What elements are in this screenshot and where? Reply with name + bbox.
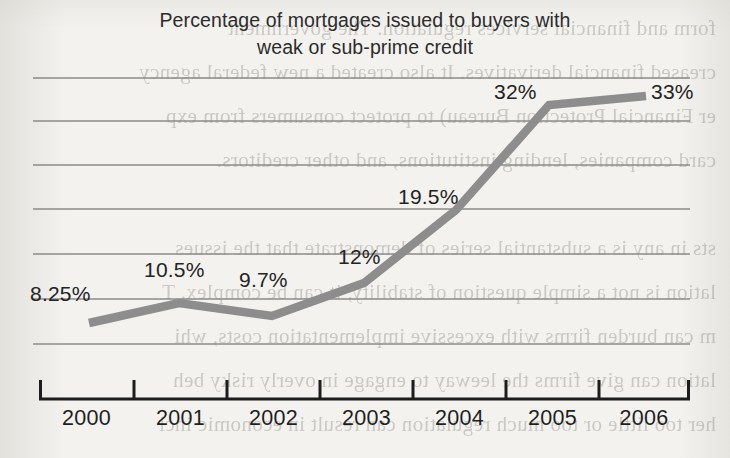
data-label-2001: 10.5% — [144, 258, 205, 282]
x-tick-label-2000: 2000 — [40, 406, 133, 431]
x-tick-label-2004: 2004 — [413, 406, 506, 431]
data-label-2000: 8.25% — [30, 282, 91, 306]
x-tick-label-2002: 2002 — [227, 406, 320, 431]
x-tick-label-2003: 2003 — [320, 406, 413, 431]
gridlines — [33, 78, 690, 344]
x-tick-label-2001: 2001 — [134, 406, 227, 431]
data-label-2002: 9.7% — [239, 268, 288, 292]
x-tick-label-2005: 2005 — [506, 406, 599, 431]
data-label-2006: 33% — [651, 80, 694, 104]
chart-title: Percentage of mortgages issued to buyers… — [0, 7, 730, 61]
data-label-2005: 32% — [494, 80, 537, 104]
x-tick-label-2006: 2006 — [599, 406, 689, 431]
chart-title-line-1: Percentage of mortgages issued to buyers… — [0, 7, 730, 34]
data-label-2004: 19.5% — [398, 185, 459, 209]
line-chart: Percentage of mortgages issued to buyers… — [0, 0, 730, 458]
chart-title-line-2: weak or sub-prime credit — [0, 34, 730, 61]
chart-svg — [0, 0, 730, 458]
x-axis — [39, 380, 690, 399]
data-label-2003: 12% — [338, 245, 381, 269]
